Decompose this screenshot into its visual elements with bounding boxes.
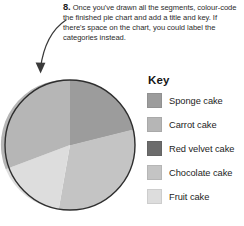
- worksheet-page: 8. Once you've drawn all the segments, c…: [0, 0, 244, 226]
- pie-chart-svg: [0, 76, 140, 216]
- key-label-chocolate-cake: Chocolate cake: [169, 168, 232, 178]
- key-title: Key: [148, 74, 244, 86]
- key-item-chocolate-cake: Chocolate cake: [147, 165, 244, 180]
- pie-chart: [0, 76, 140, 216]
- key-item-carrot-cake: Carrot cake: [147, 117, 244, 132]
- key-label-red-velvet-cake: Red velvet cake: [169, 144, 234, 154]
- key-swatch-carrot-cake: [147, 117, 162, 132]
- key-swatch-chocolate-cake: [147, 165, 162, 180]
- key-item-fruit-cake: Fruit cake: [147, 189, 244, 204]
- key-swatch-sponge-cake: [147, 93, 162, 108]
- pie-slices: [1, 80, 135, 210]
- chart-key: Key Sponge cake Carrot cake Red velvet c…: [147, 74, 244, 213]
- key-item-red-velvet-cake: Red velvet cake: [147, 141, 244, 156]
- key-label-carrot-cake: Carrot cake: [169, 120, 217, 130]
- step-number: 8.: [63, 2, 71, 12]
- key-swatch-fruit-cake: [147, 189, 162, 204]
- key-list: Sponge cake Carrot cake Red velvet cake …: [147, 93, 244, 204]
- key-label-sponge-cake: Sponge cake: [169, 96, 223, 106]
- key-item-sponge-cake: Sponge cake: [147, 93, 244, 108]
- key-swatch-red-velvet-cake: [147, 141, 162, 156]
- key-label-fruit-cake: Fruit cake: [169, 192, 209, 202]
